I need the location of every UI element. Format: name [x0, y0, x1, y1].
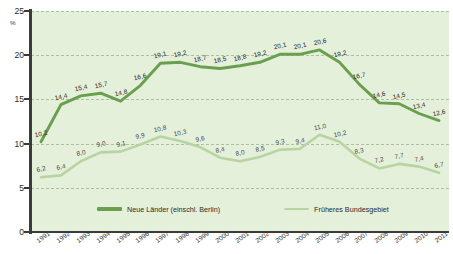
data-label: 8,3	[354, 146, 364, 155]
chart-container: 0510152025 % 199119921993199419951996199…	[0, 0, 453, 254]
legend-label-neue-laender: Neue Länder (einschl. Berlin)	[127, 205, 220, 214]
legend: Neue Länder (einschl. Berlin) Früheres B…	[31, 198, 449, 220]
legend-item-neue-laender[interactable]: Neue Länder (einschl. Berlin)	[97, 205, 220, 214]
legend-swatch-neue-laender	[97, 207, 122, 210]
data-label: 9,3	[275, 137, 285, 146]
data-label: 7,4	[414, 154, 424, 163]
data-label: 9,1	[115, 139, 125, 148]
legend-label-frueheres-bundesgebiet: Früheres Bundesgebiet	[314, 205, 389, 214]
legend-swatch-frueheres-bundesgebiet	[284, 208, 309, 210]
legend-item-frueheres-bundesgebiet[interactable]: Früheres Bundesgebiet	[284, 205, 389, 214]
